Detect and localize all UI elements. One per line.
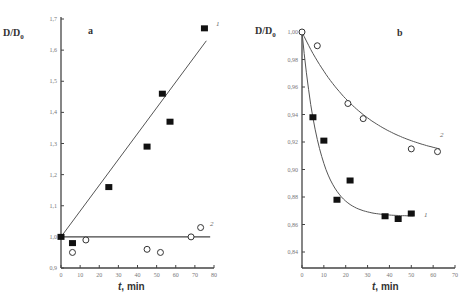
x-tick-label: 20 [96, 272, 102, 278]
y-tick-label: 1,7 [50, 16, 58, 22]
series-2-fit-curve [302, 32, 440, 149]
data-point-circle [83, 237, 89, 243]
x-tick-label: 50 [408, 272, 414, 278]
data-point-square [167, 119, 174, 125]
y-tick-label: 1,2 [50, 172, 58, 178]
data-point-square [144, 144, 151, 150]
series-1-fit-curve [302, 32, 414, 216]
panel-a-letter: a [88, 25, 93, 36]
x-tick-label: 60 [430, 272, 436, 278]
data-point-square [69, 240, 76, 246]
y-tick-label: 1,0 [50, 234, 58, 240]
data-point-square [201, 25, 208, 31]
y-tick-label: 1,4 [50, 109, 58, 115]
x-tick-label: 40 [386, 272, 392, 278]
panel-b-y-axis-label: D/D0 [255, 25, 276, 39]
data-point-square [347, 178, 354, 184]
data-point-circle [314, 43, 320, 49]
series-2-label: 2 [210, 220, 214, 228]
x-tick-label: 20 [343, 272, 349, 278]
y-tick-label: 0,88 [288, 194, 299, 200]
panel-a-x-axis-label: t, min [118, 281, 145, 292]
y-tick-label: 0,86 [288, 222, 299, 228]
x-tick-label: 0 [301, 272, 304, 278]
data-point-circle [144, 246, 150, 252]
y-tick-label: 1,1 [50, 203, 58, 209]
series-1-fit-line [61, 41, 206, 237]
panel-b-letter: b [397, 27, 403, 38]
y-tick-label: 0,92 [288, 139, 299, 145]
y-tick-label: 1,00 [288, 29, 299, 35]
y-tick-label: 0,90 [288, 167, 299, 173]
data-point-square [320, 138, 327, 144]
x-tick-label: 30 [115, 272, 121, 278]
data-point-square [395, 216, 402, 222]
panel-b-x-axis-label: t, min [372, 281, 399, 292]
data-point-circle [69, 249, 75, 255]
y-tick-label: 1,6 [50, 47, 58, 53]
data-point-square [382, 213, 389, 219]
x-tick-label: 70 [452, 272, 458, 278]
data-point-circle [299, 29, 305, 35]
x-tick-label: 0 [60, 272, 63, 278]
data-point-square [159, 91, 166, 97]
y-tick-label: 0,94 [288, 112, 299, 118]
x-tick-label: 50 [154, 272, 160, 278]
x-tick-label: 10 [321, 272, 327, 278]
data-point-circle [360, 116, 366, 122]
x-tick-label: 80 [211, 272, 217, 278]
x-tick-label: 40 [135, 272, 141, 278]
y-tick-label: 0,9 [50, 265, 58, 271]
data-point-circle [157, 249, 163, 255]
x-tick-label: 30 [365, 272, 371, 278]
chart-canvas: D/D0 a t, min D/D0 b t, min 010203040506… [0, 0, 470, 298]
data-point-circle [435, 149, 441, 155]
x-tick-label: 60 [173, 272, 179, 278]
y-tick-label: 0,96 [288, 84, 299, 90]
panel-a-y-axis-label: D/D0 [3, 27, 24, 41]
data-point-square [105, 184, 112, 190]
series-2-label: 2 [440, 131, 444, 139]
series-1-label: 1 [424, 211, 428, 219]
x-tick-label: 10 [77, 272, 83, 278]
data-point-circle [188, 234, 194, 240]
series-1-label: 1 [216, 20, 220, 28]
data-point-square [309, 114, 316, 120]
panel-b-plot: 0102030405060700,840,860,880,900,920,940… [288, 29, 459, 278]
y-tick-label: 1,3 [50, 141, 58, 147]
data-point-circle [408, 146, 414, 152]
y-tick-label: 1,5 [50, 78, 58, 84]
panel-a-plot: 010203040506070800,91,01,11,21,31,41,51,… [50, 16, 220, 278]
x-tick-label: 70 [192, 272, 198, 278]
y-tick-label: 0,84 [288, 249, 299, 255]
data-point-circle [345, 101, 351, 107]
data-point-circle [198, 225, 204, 231]
data-point-square [333, 197, 340, 203]
data-point-square [58, 234, 65, 240]
data-point-square [408, 211, 415, 217]
y-tick-label: 0,98 [288, 57, 299, 63]
